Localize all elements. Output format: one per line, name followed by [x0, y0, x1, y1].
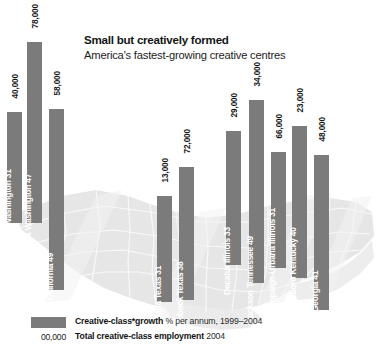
bar-value-label: 29,000 — [229, 93, 238, 117]
bar-group[interactable]: Athens Georgia 4148,000 — [314, 155, 329, 310]
bar-group[interactable]: Decatur Illinois 3329,000 — [226, 131, 241, 265]
legend-key-employment: 00,000 — [31, 332, 66, 342]
title-block: Small but creatively formed America's fa… — [84, 33, 285, 62]
bar-group[interactable]: Jackson Tennessee 4934,000 — [249, 100, 264, 283]
legend-growth-note: % per annum, 1999–2004 — [165, 316, 262, 326]
bar-value-label: 40,000 — [10, 74, 19, 98]
bar-group[interactable]: Lubbock Texas 3872,000 — [179, 167, 194, 300]
bar-value-label: 58,000 — [52, 71, 61, 95]
chart-subtitle: America's fastest-growing creative centr… — [84, 49, 285, 62]
legend-growth-title: Creative-class*growth — [75, 316, 163, 326]
legend-label-employment: Total creative-class employment 2004 — [75, 331, 225, 341]
bar-value-label: 34,000 — [252, 62, 261, 86]
bar-category-label: Owensboro Kentucky 40 — [286, 227, 300, 321]
bar-value-label: 66,000 — [274, 114, 283, 138]
legend-label-growth: Creative-class*growth % per annum, 1999–… — [75, 316, 262, 326]
legend-row-growth: Creative-class*growth % per annum, 1999–… — [0, 316, 379, 331]
bar-category-label: Yolo California 49 — [43, 253, 57, 320]
bar-group[interactable]: Olympia Washington 4778,000 — [27, 42, 42, 223]
bar-group[interactable]: Bremerton Washington 3140,000 — [7, 112, 22, 223]
bar-group[interactable]: Champaign-Urbana Illinois 3166,000 — [271, 152, 286, 268]
legend-row-employment: 00,000 Total creative-class employment 2… — [0, 331, 379, 346]
bar-category-label: Jackson Tennessee 49 — [243, 236, 257, 322]
bar-category-label: Champaign-Urbana Illinois 31 — [265, 208, 279, 320]
legend-employment-note: 2004 — [206, 331, 225, 341]
bar-group[interactable]: Owensboro Kentucky 4023,000 — [292, 126, 307, 278]
bar-category-label: Olympia Washington 47 — [21, 174, 35, 264]
bar-value-label: 48,000 — [317, 117, 326, 141]
bar-value-label: 72,000 — [182, 129, 191, 153]
chart-canvas: Bremerton Washington 3140,000Olympia Was… — [0, 0, 379, 349]
legend-swatch-growth — [31, 317, 66, 328]
bar-value-label: 23,000 — [295, 88, 304, 112]
bar-value-label: 13,000 — [160, 158, 169, 182]
bar-group[interactable]: Victoria Texas 3113,000 — [157, 196, 172, 302]
bar-value-label: 78,000 — [30, 4, 39, 28]
bar-group[interactable]: Yolo California 4958,000 — [49, 109, 64, 290]
bar-category-label: Decatur Illinois 33 — [220, 227, 234, 295]
bar-category-label: Bremerton Washington 31 — [1, 169, 15, 268]
chart-legend: Creative-class*growth % per annum, 1999–… — [0, 316, 379, 346]
chart-title: Small but creatively formed — [84, 33, 285, 47]
legend-employment-title: Total creative-class employment — [75, 331, 204, 341]
